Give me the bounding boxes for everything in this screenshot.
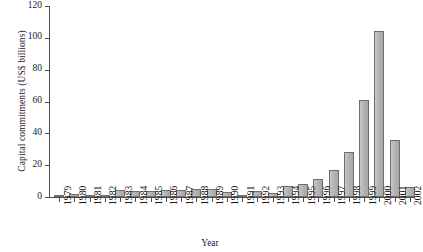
y-axis-tick-label: 100 bbox=[28, 31, 42, 41]
x-axis-tick-label: 1990 bbox=[230, 186, 240, 205]
x-axis-tick-label: 1999 bbox=[368, 186, 378, 205]
x-axis-tick-label: 1995 bbox=[307, 186, 317, 205]
x-axis-tick-label: 1997 bbox=[337, 186, 347, 205]
x-axis-tick bbox=[227, 198, 228, 202]
x-axis-tick-label: 1992 bbox=[261, 186, 271, 205]
x-axis-tick-label: 1988 bbox=[200, 186, 210, 205]
x-axis-tick bbox=[318, 198, 319, 202]
y-axis-tick: 20 bbox=[45, 165, 49, 166]
x-axis-tick bbox=[395, 198, 396, 202]
x-axis-tick bbox=[242, 198, 243, 202]
x-axis-tick-label: 2002 bbox=[413, 186, 423, 205]
x-axis-tick bbox=[151, 198, 152, 202]
x-axis-tick-label: 1989 bbox=[215, 186, 225, 205]
bar bbox=[359, 100, 369, 197]
bar bbox=[374, 31, 384, 197]
y-axis-title: Capital commitments (US$ billions) bbox=[17, 1, 27, 201]
x-axis-tick bbox=[59, 198, 60, 202]
x-axis-tick bbox=[410, 198, 411, 202]
x-axis-tick bbox=[166, 198, 167, 202]
x-axis-tick-label: 1983 bbox=[124, 186, 134, 205]
y-axis-tick: 80 bbox=[45, 70, 49, 71]
x-axis-tick-label: 1986 bbox=[169, 186, 179, 205]
y-axis-tick-label: 60 bbox=[33, 95, 43, 105]
x-axis-tick-label: 1980 bbox=[78, 186, 88, 205]
y-axis-tick-label: 0 bbox=[37, 191, 42, 201]
x-axis-tick bbox=[196, 198, 197, 202]
x-axis-tick bbox=[364, 198, 365, 202]
x-axis-tick bbox=[273, 198, 274, 202]
x-axis-tick bbox=[90, 198, 91, 202]
y-axis-tick: 40 bbox=[45, 133, 49, 134]
x-axis-tick-label: 1991 bbox=[246, 186, 256, 205]
x-axis-tick bbox=[334, 198, 335, 202]
x-axis-title: Year bbox=[0, 238, 420, 248]
x-axis-tick bbox=[288, 198, 289, 202]
x-axis-tick bbox=[74, 198, 75, 202]
plot-area: 020406080100120 197919801981198219831984… bbox=[49, 6, 415, 197]
y-axis-tick: 100 bbox=[45, 38, 49, 39]
x-axis-tick bbox=[181, 198, 182, 202]
x-axis-tick-label: 1981 bbox=[93, 186, 103, 205]
x-axis-tick bbox=[349, 198, 350, 202]
x-axis-tick bbox=[120, 198, 121, 202]
y-axis-tick: 0 bbox=[45, 197, 49, 198]
x-axis-tick-label: 1994 bbox=[291, 186, 301, 205]
x-axis-tick bbox=[379, 198, 380, 202]
y-axis-tick-label: 120 bbox=[28, 0, 42, 10]
y-axis-tick-label: 80 bbox=[33, 63, 43, 73]
y-axis-tick-label: 20 bbox=[33, 159, 43, 169]
x-axis-tick-label: 1985 bbox=[154, 186, 164, 205]
y-axis-line bbox=[49, 6, 50, 198]
y-axis-tick: 60 bbox=[45, 102, 49, 103]
y-axis-tick-label: 40 bbox=[33, 127, 43, 137]
x-axis-tick-label: 2000 bbox=[383, 186, 393, 205]
x-axis-tick bbox=[257, 198, 258, 202]
y-axis-tick: 120 bbox=[45, 6, 49, 7]
x-axis-tick bbox=[303, 198, 304, 202]
x-axis-tick-label: 1979 bbox=[63, 186, 73, 205]
x-axis-tick bbox=[105, 198, 106, 202]
x-axis-tick-label: 1993 bbox=[276, 186, 286, 205]
x-axis-tick-label: 1998 bbox=[352, 186, 362, 205]
x-axis-tick-label: 1982 bbox=[108, 186, 118, 205]
x-axis-tick-label: 1984 bbox=[139, 186, 149, 205]
x-axis-tick-label: 1996 bbox=[322, 186, 332, 205]
x-axis-tick bbox=[212, 198, 213, 202]
x-axis-tick-label: 2001 bbox=[398, 186, 408, 205]
x-axis-tick bbox=[135, 198, 136, 202]
x-axis-tick-label: 1987 bbox=[185, 186, 195, 205]
